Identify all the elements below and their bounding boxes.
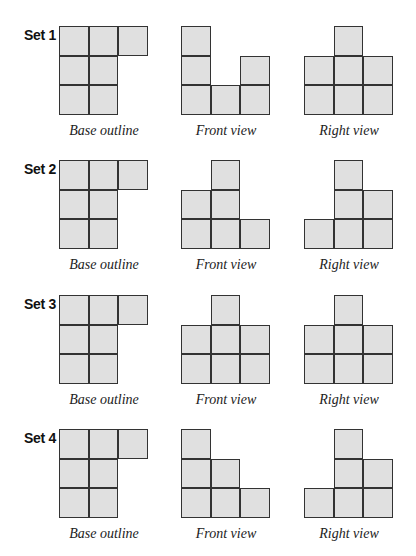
grid-cell bbox=[181, 459, 211, 489]
grid-cell bbox=[211, 295, 241, 325]
right-view-grid bbox=[304, 26, 394, 116]
front-view-grid bbox=[181, 295, 271, 385]
grid-cell bbox=[59, 56, 89, 86]
grid-cell bbox=[181, 429, 211, 459]
grid-cell bbox=[59, 488, 89, 518]
grid-cell bbox=[334, 325, 364, 355]
set-label: Set 4 bbox=[24, 430, 56, 446]
grid-cell bbox=[181, 190, 211, 220]
right-view-grid bbox=[304, 295, 394, 385]
grid-cell bbox=[334, 56, 364, 86]
grid-cell bbox=[334, 488, 364, 518]
grid-cell bbox=[363, 85, 393, 115]
grid-cell bbox=[59, 429, 89, 459]
grid-cell bbox=[118, 295, 148, 325]
grid-cell bbox=[59, 160, 89, 190]
grid-cell bbox=[211, 354, 241, 384]
grid-cell bbox=[89, 325, 119, 355]
grid-cell bbox=[334, 459, 364, 489]
grid-cell bbox=[304, 354, 334, 384]
grid-cell bbox=[89, 295, 119, 325]
grid-cell bbox=[181, 488, 211, 518]
grid-cell bbox=[304, 85, 334, 115]
set-label: Set 2 bbox=[24, 161, 56, 177]
grid-cell bbox=[89, 85, 119, 115]
grid-cell bbox=[59, 354, 89, 384]
front-view-grid bbox=[181, 429, 271, 519]
grid-cell bbox=[334, 295, 364, 325]
grid-cell bbox=[118, 160, 148, 190]
grid-cell bbox=[59, 219, 89, 249]
grid-cell bbox=[363, 56, 393, 86]
front-caption: Front view bbox=[166, 123, 286, 139]
grid-cell bbox=[334, 219, 364, 249]
grid-cell bbox=[211, 219, 241, 249]
base-view-grid bbox=[59, 429, 149, 519]
grid-cell bbox=[363, 190, 393, 220]
grid-cell bbox=[363, 459, 393, 489]
grid-cell bbox=[334, 429, 364, 459]
base-view-grid bbox=[59, 295, 149, 385]
grid-cell bbox=[334, 160, 364, 190]
grid-cell bbox=[240, 85, 270, 115]
grid-cell bbox=[59, 26, 89, 56]
grid-cell bbox=[304, 488, 334, 518]
right-caption: Right view bbox=[289, 392, 409, 408]
grid-cell bbox=[304, 325, 334, 355]
grid-cell bbox=[89, 190, 119, 220]
grid-cell bbox=[59, 85, 89, 115]
right-caption: Right view bbox=[289, 257, 409, 273]
grid-cell bbox=[211, 459, 241, 489]
grid-cell bbox=[363, 488, 393, 518]
right-view-grid bbox=[304, 429, 394, 519]
grid-cell bbox=[89, 488, 119, 518]
base-caption: Base outline bbox=[44, 392, 164, 408]
grid-cell bbox=[59, 295, 89, 325]
base-caption: Base outline bbox=[44, 257, 164, 273]
front-caption: Front view bbox=[166, 526, 286, 542]
grid-cell bbox=[211, 190, 241, 220]
grid-cell bbox=[89, 219, 119, 249]
grid-cell bbox=[89, 459, 119, 489]
grid-cell bbox=[89, 56, 119, 86]
grid-cell bbox=[363, 325, 393, 355]
grid-cell bbox=[211, 160, 241, 190]
grid-cell bbox=[211, 85, 241, 115]
grid-cell bbox=[181, 219, 211, 249]
front-view-grid bbox=[181, 26, 271, 116]
grid-cell bbox=[240, 354, 270, 384]
grid-cell bbox=[89, 26, 119, 56]
grid-cell bbox=[304, 56, 334, 86]
front-view-grid bbox=[181, 160, 271, 250]
grid-cell bbox=[59, 190, 89, 220]
grid-cell bbox=[363, 219, 393, 249]
grid-cell bbox=[240, 488, 270, 518]
grid-cell bbox=[334, 354, 364, 384]
set-label: Set 1 bbox=[24, 27, 56, 43]
grid-cell bbox=[181, 325, 211, 355]
grid-cell bbox=[304, 219, 334, 249]
grid-cell bbox=[118, 26, 148, 56]
front-caption: Front view bbox=[166, 392, 286, 408]
grid-cell bbox=[240, 325, 270, 355]
grid-cell bbox=[334, 26, 364, 56]
grid-cell bbox=[240, 56, 270, 86]
grid-cell bbox=[89, 160, 119, 190]
grid-cell bbox=[334, 85, 364, 115]
grid-cell bbox=[59, 325, 89, 355]
grid-cell bbox=[181, 26, 211, 56]
base-view-grid bbox=[59, 26, 149, 116]
grid-cell bbox=[334, 190, 364, 220]
grid-cell bbox=[181, 354, 211, 384]
right-caption: Right view bbox=[289, 526, 409, 542]
grid-cell bbox=[89, 354, 119, 384]
grid-cell bbox=[211, 325, 241, 355]
right-view-grid bbox=[304, 160, 394, 250]
grid-cell bbox=[118, 429, 148, 459]
grid-cell bbox=[363, 354, 393, 384]
grid-cell bbox=[59, 459, 89, 489]
grid-cell bbox=[181, 85, 211, 115]
grid-cell bbox=[181, 56, 211, 86]
base-caption: Base outline bbox=[44, 123, 164, 139]
grid-cell bbox=[211, 488, 241, 518]
